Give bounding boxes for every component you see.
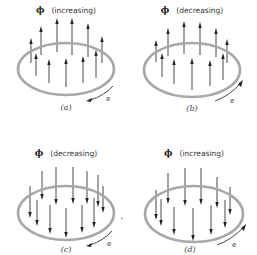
panel-d: ϕ (increasing) e (d) bbox=[145, 141, 246, 254]
phi-symbol: ϕ bbox=[164, 148, 173, 158]
conducting-loop bbox=[145, 186, 243, 242]
panel-a-label: (a) bbox=[60, 103, 71, 112]
current-label: e bbox=[106, 95, 110, 103]
current-direction-arrow bbox=[215, 80, 243, 101]
panel-d-label: (d) bbox=[184, 245, 195, 254]
panel-b: ϕ (decreasing) e (b) bbox=[144, 0, 243, 113]
current-label: e bbox=[232, 241, 236, 249]
phi-symbol: ϕ bbox=[35, 148, 44, 158]
flux-arrows-back bbox=[28, 167, 104, 218]
phi-symbol: ϕ bbox=[161, 5, 170, 15]
stray-mark bbox=[121, 218, 123, 219]
panel-b-label: (b) bbox=[186, 104, 197, 113]
flux-arrows-front bbox=[35, 198, 95, 238]
panel-c-title: ϕ (decreasing) bbox=[35, 141, 98, 160]
flux-arrows-back bbox=[29, 18, 103, 63]
flux-loop-diagram: ϕ (increasing) e (a) ϕ bbox=[0, 0, 257, 255]
panel-a-title: ϕ (increasing) bbox=[36, 0, 96, 17]
flux-arrows-front bbox=[160, 53, 224, 90]
phi-symbol: ϕ bbox=[36, 5, 45, 15]
current-label: e bbox=[107, 240, 111, 248]
panel-a: ϕ (increasing) e (a) bbox=[18, 0, 114, 112]
panel-b-title: ϕ (decreasing) bbox=[161, 0, 224, 17]
panel-d-title: ϕ (increasing) bbox=[164, 141, 224, 160]
panel-c-label: (c) bbox=[61, 245, 72, 254]
current-label: e bbox=[230, 97, 234, 105]
panel-c: ϕ (decreasing) e (c) bbox=[18, 141, 123, 254]
